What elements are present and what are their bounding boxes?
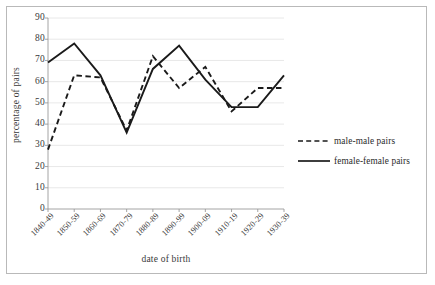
y-tick-label: 40 [20,119,45,129]
y-axis-tick-labels: 0102030405060708090 [20,18,45,209]
data-series-lines [48,43,284,149]
legend-swatch-dashed-icon [297,136,331,146]
y-tick-label: 0 [20,204,45,214]
y-tick-label: 60 [20,77,45,87]
y-tick-label: 20 [20,162,45,172]
legend-label-male-male: male-male pairs [331,136,395,146]
legend-label-female-female: female-female pairs [331,156,410,166]
x-axis-tick-labels: 1840-491850-591860-691870-791880-891890-… [48,212,288,254]
legend-swatch-solid-icon [297,156,331,166]
y-tick-label: 90 [20,13,45,23]
y-tick-label: 30 [20,140,45,150]
axis-tick-marks [45,18,284,212]
chart-legend: male-male pairs female-female pairs [297,131,425,171]
y-tick-label: 50 [20,98,45,108]
chart-figure: 0102030405060708090 percentage of pairs … [0,0,435,285]
legend-item-male-male: male-male pairs [297,131,425,151]
y-axis-title: percentage of pairs [11,40,21,170]
y-tick-label: 10 [20,183,45,193]
plot-canvas [48,18,284,209]
gridlines [48,18,284,209]
plot-area [48,18,284,209]
x-axis-title: date of birth [48,254,284,264]
legend-item-female-female: female-female pairs [297,151,425,171]
y-tick-label: 70 [20,55,45,65]
series-line-2 [48,43,284,132]
y-tick-label: 80 [20,34,45,44]
